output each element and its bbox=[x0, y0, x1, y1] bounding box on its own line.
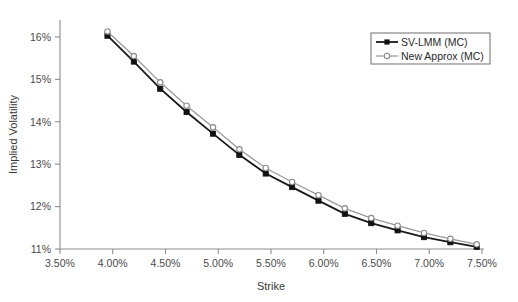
x-axis-title: Strike bbox=[257, 280, 285, 292]
series-line-0 bbox=[107, 36, 476, 247]
x-tick-label: 5.00% bbox=[203, 257, 233, 269]
series-marker-1 bbox=[184, 103, 189, 108]
series-marker-0 bbox=[369, 221, 374, 226]
series-marker-1 bbox=[237, 147, 242, 152]
series-marker-1 bbox=[158, 80, 163, 85]
x-tick-label: 4.00% bbox=[98, 257, 128, 269]
series-marker-0 bbox=[158, 86, 163, 91]
series-marker-0 bbox=[342, 211, 347, 216]
series-marker-1 bbox=[263, 165, 268, 170]
series-marker-0 bbox=[290, 184, 295, 189]
legend-sample-marker-1 bbox=[384, 53, 389, 58]
y-tick-label: 12% bbox=[30, 200, 51, 212]
y-axis-title: Implied Volatility bbox=[7, 95, 19, 174]
y-tick-group: 11%12%13%14%15%16% bbox=[30, 31, 60, 255]
x-tick-label: 4.50% bbox=[151, 257, 181, 269]
x-tick-label: 3.50% bbox=[45, 257, 75, 269]
series-marker-1 bbox=[342, 206, 347, 211]
series-marker-0 bbox=[184, 109, 189, 114]
x-axis: 3.50%4.00%4.50%5.00%5.50%6.00%6.50%7.00%… bbox=[45, 249, 497, 269]
series-marker-0 bbox=[263, 171, 268, 176]
series-marker-1 bbox=[474, 242, 479, 247]
x-tick-label: 5.50% bbox=[256, 257, 286, 269]
y-axis: 11%12%13%14%15%16% bbox=[30, 20, 60, 255]
y-tick-label: 16% bbox=[30, 31, 51, 43]
series-marker-0 bbox=[131, 59, 136, 64]
series-marker-1 bbox=[131, 53, 136, 58]
y-tick-label: 14% bbox=[30, 116, 51, 128]
series-marker-0 bbox=[316, 198, 321, 203]
x-tick-label: 6.50% bbox=[362, 257, 392, 269]
legend-sample-marker-0 bbox=[384, 39, 389, 44]
series-marker-1 bbox=[421, 230, 426, 235]
series-marker-1 bbox=[395, 223, 400, 228]
series-marker-0 bbox=[237, 152, 242, 157]
series-marker-1 bbox=[448, 236, 453, 241]
legend-label-1: New Approx (MC) bbox=[401, 50, 484, 62]
x-tick-label: 6.00% bbox=[309, 257, 339, 269]
series-marker-0 bbox=[210, 131, 215, 136]
series-marker-1 bbox=[210, 125, 215, 130]
series-marker-1 bbox=[316, 192, 321, 197]
series-marker-1 bbox=[289, 179, 294, 184]
chart-legend: SV-LMM (MC)New Approx (MC) bbox=[371, 33, 490, 64]
chart-figure: 11%12%13%14%15%16% 3.50%4.00%4.50%5.00%5… bbox=[0, 0, 518, 302]
y-tick-label: 13% bbox=[30, 158, 51, 170]
y-tick-label: 11% bbox=[31, 243, 51, 255]
series-marker-1 bbox=[369, 215, 374, 220]
y-tick-label: 15% bbox=[30, 73, 51, 85]
legend-label-0: SV-LMM (MC) bbox=[401, 36, 468, 48]
x-tick-group: 3.50%4.00%4.50%5.00%5.50%6.00%6.50%7.00%… bbox=[45, 249, 497, 269]
x-tick-label: 7.50% bbox=[467, 257, 497, 269]
x-tick-label: 7.00% bbox=[414, 257, 444, 269]
series-marker-1 bbox=[105, 29, 110, 34]
implied-volatility-chart: 11%12%13%14%15%16% 3.50%4.00%4.50%5.00%5… bbox=[0, 0, 518, 302]
